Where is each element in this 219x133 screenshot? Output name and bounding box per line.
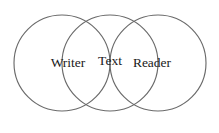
text-label: Text [98, 53, 122, 68]
writer-label: Writer [51, 55, 86, 70]
reader-label: Reader [133, 55, 172, 70]
venn-diagram-canvas: Writer Text Reader [0, 0, 219, 133]
venn-diagram: Writer Text Reader [0, 0, 219, 133]
